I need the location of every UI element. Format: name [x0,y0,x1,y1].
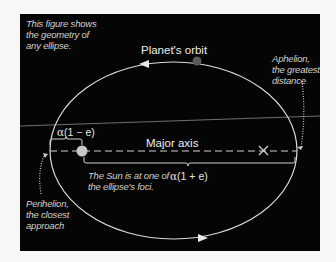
perihelion-pointer-arrow-icon [43,153,48,158]
perihelion-bracket [50,137,82,145]
aphelion-bracket [84,157,295,166]
sun-icon [77,146,88,157]
perihelion-note: Perihelion, the closest approach [26,198,78,231]
aphelion-note: Aphelion, the greatest distance [272,53,320,86]
intro-note: This figure shows the geometry of any el… [26,18,106,51]
orbit-arrow-top-icon [139,60,149,68]
aphelion-distance-label: α(1 + e) [170,170,208,182]
perihelion-distance-label: α(1 − e) [57,126,95,138]
major-axis-label: Major axis [146,137,198,149]
reference-line [20,116,320,126]
perihelion-expression: (1 − e) [64,126,95,138]
orbit-label: Planet's orbit [141,44,207,56]
aphelion-pointer-arrow-icon [297,146,303,150]
planet-icon [193,57,202,66]
sun-note: The Sun is at one of the ellipse's foci. [88,170,178,192]
perihelion-pointer [40,154,45,194]
aphelion-pointer [301,81,304,148]
aphelion-expression: (1 + e) [177,170,208,182]
